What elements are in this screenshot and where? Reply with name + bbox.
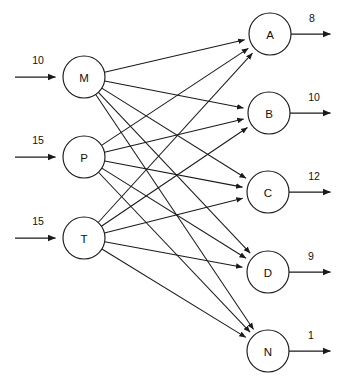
node-label-n: N: [264, 346, 272, 358]
node-c[interactable]: C: [247, 171, 289, 213]
supply-arrows-layer: 101515: [15, 54, 56, 238]
demand-arrow-b: 10: [290, 91, 331, 113]
edge-m-b: [105, 81, 244, 108]
edge-m-a: [104, 40, 244, 72]
edge-p-b: [104, 119, 243, 152]
edge-p-a: [102, 48, 249, 145]
edge-t-a: [98, 53, 252, 222]
edges-layer: [96, 40, 254, 338]
network-diagram: 101515 8101291 MPTABCDN: [0, 0, 347, 383]
supply-arrow-p: 15: [15, 134, 56, 157]
demand-arrow-c: 12: [289, 170, 331, 192]
demand-arrow-d: 9: [289, 250, 331, 272]
edge-t-n: [102, 249, 246, 337]
supply-arrow-m: 10: [15, 54, 56, 77]
diagram-canvas: 101515 8101291 MPTABCDN: [0, 0, 347, 383]
demand-label-n: 1: [308, 329, 314, 341]
node-label-d: D: [264, 267, 272, 279]
node-label-t: T: [80, 233, 87, 245]
node-b[interactable]: B: [248, 92, 290, 134]
demand-label-b: 10: [308, 91, 320, 103]
node-t[interactable]: T: [63, 217, 105, 259]
demand-label-a: 8: [309, 12, 315, 24]
node-label-b: B: [265, 108, 273, 120]
demand-arrow-a: 8: [291, 12, 331, 34]
supply-label-m: 10: [32, 54, 44, 66]
demand-label-d: 9: [308, 250, 314, 262]
supply-label-t: 15: [32, 215, 44, 227]
supply-label-p: 15: [32, 134, 44, 146]
node-p[interactable]: P: [63, 136, 105, 178]
edge-p-n: [98, 172, 250, 332]
demand-arrows-layer: 8101291: [289, 12, 331, 351]
node-n[interactable]: N: [247, 330, 289, 372]
edge-p-d: [102, 168, 246, 258]
demand-arrow-n: 1: [289, 329, 331, 351]
supply-arrow-t: 15: [15, 215, 56, 238]
node-label-a: A: [266, 29, 274, 41]
node-d[interactable]: D: [247, 251, 289, 293]
node-label-c: C: [264, 187, 272, 199]
node-m[interactable]: M: [63, 56, 105, 98]
edge-t-c: [104, 198, 242, 233]
nodes-layer: MPTABCDN: [63, 13, 291, 372]
node-a[interactable]: A: [249, 13, 291, 55]
node-label-p: P: [80, 152, 88, 164]
demand-label-c: 12: [308, 170, 320, 182]
node-label-m: M: [79, 72, 89, 84]
